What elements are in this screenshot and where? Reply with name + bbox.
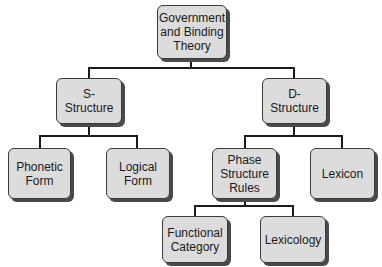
node-lexicology: Lexicology: [260, 216, 326, 263]
connector-to-d-structure: [293, 67, 295, 78]
node-label-line: Phase: [220, 153, 269, 167]
node-label: D-Structure: [265, 87, 324, 115]
node-label: S-Structure: [59, 87, 119, 115]
node-s-structure: S-Structure: [56, 78, 122, 124]
connector-to-phonetic-form: [39, 135, 41, 148]
connector-to-phase-structure-rules: [244, 135, 246, 148]
node-functional-category: Functional Category: [162, 216, 228, 263]
node-label: Lexicology: [265, 233, 322, 247]
node-label-line: Structure: [220, 167, 269, 181]
node-logical-form: Logical Form: [106, 148, 170, 199]
connector-to-lexicon: [341, 135, 343, 148]
node-label-line: Form: [119, 174, 157, 188]
node-phase-structure-rules: Phase Structure Rules: [212, 148, 277, 199]
connector-to-lexicology: [292, 205, 294, 216]
node-label-line: Form: [16, 174, 63, 188]
connector-s-horizontal: [39, 135, 138, 137]
node-label-line: Government: [159, 11, 225, 25]
node-label: Lexicon: [322, 167, 363, 181]
connector-d-horizontal: [244, 135, 343, 137]
connector-to-s-structure: [88, 67, 90, 78]
connector-root-horizontal: [88, 67, 295, 69]
node-root-government-and-binding-theory: Government and Binding Theory: [157, 5, 227, 59]
node-label-line: and Binding: [159, 25, 225, 39]
node-label-line: Theory: [159, 39, 225, 53]
node-label-line: Category: [167, 240, 222, 254]
node-label-line: Functional: [167, 226, 222, 240]
node-lexicon: Lexicon: [310, 148, 375, 199]
node-label-line: Logical: [119, 160, 157, 174]
connector-to-logical-form: [136, 135, 138, 148]
node-label-line: Phonetic: [16, 160, 63, 174]
node-d-structure: D-Structure: [262, 78, 327, 124]
connector-to-functional-category: [194, 205, 196, 216]
connector-phase-horizontal: [194, 205, 294, 207]
node-phonetic-form: Phonetic Form: [8, 148, 71, 199]
node-label-line: Rules: [220, 181, 269, 195]
